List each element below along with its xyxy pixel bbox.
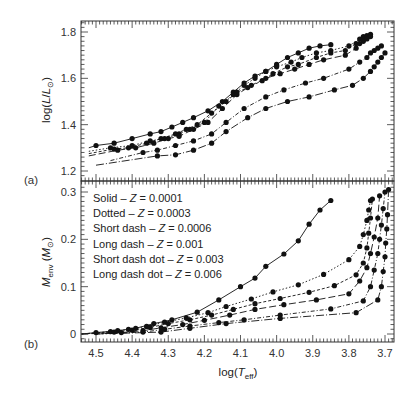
data-point <box>383 241 388 246</box>
data-point <box>281 251 286 256</box>
data-point <box>346 67 351 72</box>
legend-item: Dotted – Z = 0.0003 <box>93 207 191 219</box>
panel-a-label: (a) <box>24 174 38 186</box>
data-point <box>234 92 239 97</box>
data-point <box>379 223 384 228</box>
data-point <box>187 326 192 331</box>
data-point <box>238 284 243 289</box>
data-point <box>375 297 380 302</box>
y-tick-label: 1.2 <box>61 165 76 177</box>
data-point <box>307 290 312 295</box>
data-point <box>285 64 290 69</box>
data-point <box>307 94 312 99</box>
data-point <box>343 48 348 53</box>
data-point <box>263 76 268 81</box>
data-point <box>375 215 380 220</box>
data-point <box>191 127 196 132</box>
data-point <box>368 69 373 74</box>
data-point <box>364 36 369 41</box>
data-point <box>278 296 283 301</box>
data-point <box>281 87 286 92</box>
data-point <box>321 272 326 277</box>
data-point <box>231 307 236 312</box>
data-point <box>191 138 196 143</box>
data-point <box>173 152 178 157</box>
series-line <box>96 53 385 165</box>
data-point <box>379 55 384 60</box>
data-point <box>242 106 247 111</box>
data-point <box>115 148 120 153</box>
data-point <box>379 43 384 48</box>
panel-a-luminosity <box>89 32 388 166</box>
data-point <box>332 87 337 92</box>
data-point <box>224 129 229 134</box>
data-point <box>263 106 268 111</box>
data-point <box>112 141 117 146</box>
data-point <box>184 127 189 132</box>
data-point <box>354 310 359 315</box>
chart-figure: 1.21.41.61.800.10.20.34.54.44.34.24.14.0… <box>0 0 415 397</box>
data-point <box>249 83 254 88</box>
data-point <box>361 260 366 265</box>
series-line <box>111 46 382 161</box>
data-point <box>281 302 286 307</box>
data-point <box>354 272 359 277</box>
x-tick-label: 4.3 <box>161 347 176 359</box>
data-point <box>270 289 275 294</box>
data-point <box>321 76 326 81</box>
data-point <box>278 316 283 321</box>
x-tick-label: 3.8 <box>341 347 356 359</box>
data-point <box>180 120 185 125</box>
data-point <box>195 310 200 315</box>
data-point <box>296 62 301 67</box>
data-point <box>364 55 369 60</box>
series-line <box>82 199 373 334</box>
data-point <box>346 257 351 262</box>
data-point <box>227 313 232 318</box>
data-point <box>140 330 145 335</box>
data-point <box>205 120 210 125</box>
data-point <box>314 50 319 55</box>
data-point <box>169 317 174 322</box>
data-point <box>299 55 304 60</box>
data-point <box>263 69 268 74</box>
data-point <box>93 143 98 148</box>
data-point <box>274 64 279 69</box>
data-point <box>148 131 153 136</box>
x-tick-label: 3.7 <box>377 347 392 359</box>
x-tick-label: 4.4 <box>124 347 139 359</box>
data-point <box>151 141 156 146</box>
panel-b-y-axis-title: Menv (M⊙) <box>40 237 55 287</box>
data-point <box>130 136 135 141</box>
legend-item: Short dash dot – Z = 0.003 <box>93 253 224 265</box>
data-point <box>364 245 369 250</box>
data-point <box>209 313 214 318</box>
data-point <box>385 212 390 217</box>
data-point <box>357 60 362 65</box>
data-point <box>368 284 373 289</box>
data-point <box>224 120 229 125</box>
data-point <box>317 207 322 212</box>
data-point <box>354 46 359 51</box>
data-point <box>224 321 229 326</box>
data-point <box>317 43 322 48</box>
data-point <box>328 50 333 55</box>
y-tick-label: 1.8 <box>61 26 76 38</box>
data-point <box>173 143 178 148</box>
data-point <box>158 330 163 335</box>
data-point <box>202 318 207 323</box>
panel-b-label: (b) <box>24 338 38 350</box>
data-point <box>357 278 362 283</box>
data-point <box>155 153 160 158</box>
data-point <box>377 193 382 198</box>
data-point <box>187 317 192 322</box>
data-point <box>372 234 377 239</box>
data-point <box>245 115 250 120</box>
y-tick-label: 1.4 <box>61 119 76 131</box>
data-point <box>155 148 160 153</box>
x-axis-title: log(Teff) <box>219 366 258 381</box>
y-tick-label: 0.1 <box>61 281 76 293</box>
data-point <box>382 254 387 259</box>
data-point <box>303 80 308 85</box>
data-point <box>370 197 375 202</box>
